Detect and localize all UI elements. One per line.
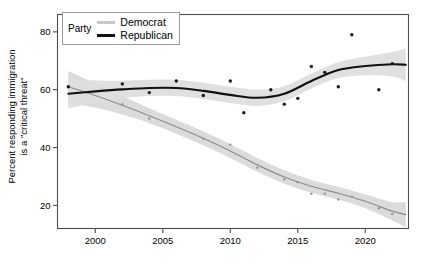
legend-item-democrat[interactable]: Democrat xyxy=(97,16,173,28)
chart-container: Percent responding immigration is a "cri… xyxy=(0,0,422,273)
x-tick-label: 2010 xyxy=(220,235,241,246)
democrat-line-swatch xyxy=(97,21,115,24)
legend-item-republican[interactable]: Republican xyxy=(97,29,173,41)
x-tick-label: 2005 xyxy=(152,235,173,246)
legend-label-democrat: Democrat xyxy=(120,16,166,28)
y-tick-label: 40 xyxy=(40,142,51,153)
republican-line-swatch xyxy=(97,34,115,37)
y-tick-label: 80 xyxy=(40,26,51,37)
legend: Party Democrat Republican xyxy=(62,12,180,45)
legend-title: Party xyxy=(68,23,91,34)
y-tick-label: 20 xyxy=(40,200,51,211)
x-tick-label: 2015 xyxy=(287,235,308,246)
x-tick-label: 2000 xyxy=(85,235,106,246)
y-tick-label: 60 xyxy=(40,84,51,95)
confidence-ribbons xyxy=(68,49,406,228)
x-tick-label: 2020 xyxy=(355,235,376,246)
legend-label-republican: Republican xyxy=(120,29,173,41)
